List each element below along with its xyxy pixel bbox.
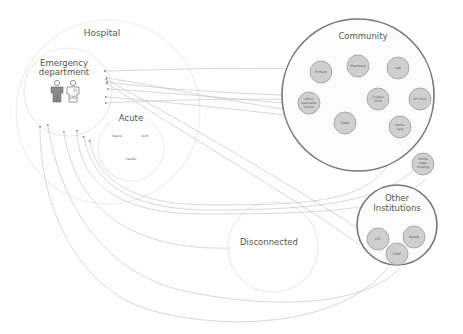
- node-tx-clinic[interactable]: Tx/spec clinic: [367, 88, 389, 110]
- node-sdac[interactable]: SDAC: [334, 112, 356, 134]
- disconnected-zone[interactable]: Disconnected: [228, 202, 318, 292]
- node-ltc[interactable]: LTC: [367, 228, 389, 250]
- svg-text:SDAC: SDAC: [393, 252, 403, 256]
- acute-unit-neuro: Neuro: [112, 134, 122, 138]
- svg-text:SDAC: SDAC: [341, 121, 351, 125]
- node-home-care[interactable]: Home care: [389, 116, 411, 138]
- other-institutions-label-line1: Other: [385, 193, 410, 203]
- node-lab[interactable]: Lab: [387, 57, 409, 79]
- emergency-label-line2: department: [39, 67, 90, 77]
- node-other-specialist-clinics[interactable]: Other specialist clinics: [298, 92, 320, 114]
- svg-text:housing: housing: [417, 165, 430, 169]
- other-institutions-label-line2: Institutions: [373, 203, 421, 213]
- svg-text:care: care: [397, 127, 404, 131]
- clinician-icon: [67, 80, 79, 102]
- svg-text:clinics: clinics: [304, 105, 314, 109]
- svg-text:Pharmacy: Pharmacy: [350, 64, 366, 68]
- svg-text:Rehab: Rehab: [409, 235, 419, 239]
- node-ap-clinic[interactable]: AP clinic: [409, 88, 431, 110]
- svg-text:clinic: clinic: [374, 99, 382, 103]
- svg-text:LTC: LTC: [375, 237, 381, 241]
- svg-text:AP clinic: AP clinic: [413, 97, 427, 101]
- node-home-supported-housing[interactable]: Home supp. housing: [412, 153, 434, 175]
- acute-unit-cardio: Cardio: [126, 157, 136, 161]
- patient-flow-diagram: Hospital Emergency department Acute Neur…: [0, 0, 463, 334]
- node-primary[interactable]: Primary: [310, 61, 332, 83]
- hospital-label: Hospital: [84, 28, 121, 38]
- emergency-department-zone[interactable]: Emergency department: [24, 48, 112, 136]
- node-pharmacy[interactable]: Pharmacy: [347, 55, 369, 77]
- node-sdac-institution[interactable]: SDAC: [386, 243, 408, 265]
- svg-text:Lab: Lab: [395, 66, 401, 70]
- disconnected-label: Disconnected: [240, 237, 298, 247]
- acute-label: Acute: [119, 113, 143, 123]
- community-label: Community: [338, 31, 387, 41]
- svg-text:Primary: Primary: [315, 70, 327, 74]
- other-institutions-zone[interactable]: Other Institutions LTC Rehab SDAC: [357, 185, 437, 265]
- acute-zone[interactable]: Acute Neuro G/M Cardio: [98, 113, 164, 181]
- node-rehab[interactable]: Rehab: [403, 226, 425, 248]
- patient-icon: [51, 80, 63, 102]
- acute-unit-gm: G/M: [142, 134, 149, 138]
- hospital-zone[interactable]: Hospital: [16, 20, 200, 204]
- community-zone[interactable]: Community Primary Pharmacy Lab Other spe…: [282, 19, 434, 175]
